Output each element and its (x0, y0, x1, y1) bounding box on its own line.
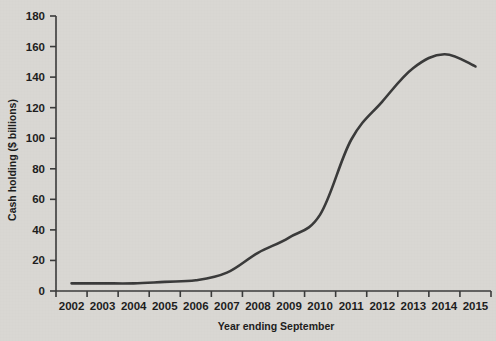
chart-background (0, 0, 496, 341)
x-axis-tick-label: 2007 (214, 300, 240, 312)
x-axis-tick-label: 2008 (245, 300, 271, 312)
x-axis-tick-label: 2006 (183, 300, 209, 312)
x-axis-tick-label: 2015 (463, 300, 489, 312)
x-axis-tick-label: 2009 (276, 300, 302, 312)
line-chart: 020406080100120140160180 200220032004200… (0, 0, 496, 341)
y-axis-tick-label: 160 (26, 41, 45, 53)
x-axis-tick-label: 2014 (432, 300, 458, 312)
x-axis-tick-label: 2010 (307, 300, 333, 312)
y-axis-tick-label: 40 (32, 224, 45, 236)
y-axis-tick-label: 20 (32, 254, 45, 266)
x-axis-tick-label: 2013 (401, 300, 427, 312)
x-axis-title: Year ending September (218, 320, 335, 332)
y-axis-tick-label: 100 (26, 132, 45, 144)
y-axis-tick-label: 140 (26, 71, 45, 83)
x-axis-tick-label: 2012 (369, 300, 395, 312)
x-axis-tick-label: 2003 (90, 300, 116, 312)
chart-canvas: 020406080100120140160180 200220032004200… (0, 0, 496, 341)
y-axis-tick-label: 120 (26, 102, 45, 114)
x-axis-tick-label: 2002 (59, 300, 85, 312)
x-axis-tick-label: 2004 (121, 300, 147, 312)
y-axis-tick-label: 80 (32, 163, 45, 175)
y-axis-title: Cash holding ($ billions) (6, 99, 18, 221)
x-axis-tick-label: 2011 (339, 300, 365, 312)
y-axis-tick-label: 180 (26, 10, 45, 22)
y-axis-tick-label: 60 (32, 193, 45, 205)
x-axis-tick-label: 2005 (152, 300, 178, 312)
y-axis-tick-label: 0 (39, 285, 45, 297)
